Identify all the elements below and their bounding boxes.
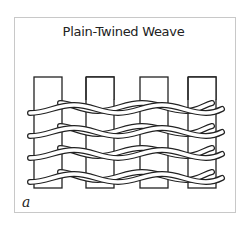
panel-label: a bbox=[22, 194, 30, 210]
weave-diagram bbox=[0, 0, 247, 225]
